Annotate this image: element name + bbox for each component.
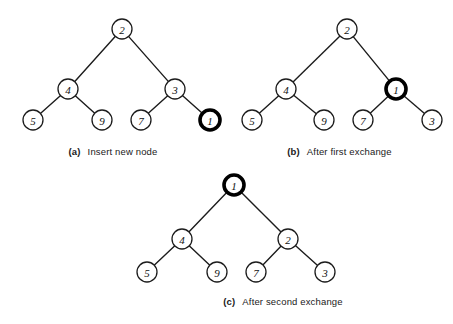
node-label: 3 [428,115,435,127]
node-label: 7 [360,115,366,127]
caption-b-tag: (b) [287,146,300,157]
tree-edge [263,246,282,265]
node-label: 5 [30,115,36,127]
node-label: 2 [344,24,350,36]
node-label: 3 [321,267,328,279]
tree-node-highlighted: 1 [224,175,244,195]
tree-node: 4 [172,229,192,249]
tree-node: 4 [276,79,296,99]
tree-edge [189,246,210,266]
tree-edge [403,95,425,114]
tree-node: 7 [246,262,266,282]
tree-panel-a: 2435971 (a)Insert new node [0,0,226,162]
node-label: 5 [144,267,150,279]
tree-edge [241,192,282,233]
tree-node: 7 [131,110,151,130]
node-label: 4 [283,84,289,96]
tree-node: 3 [422,110,442,130]
tree-node: 2 [112,19,132,39]
tree-node: 2 [278,229,298,249]
tree-node: 9 [92,110,112,130]
tree-node: 9 [207,262,227,282]
tree-edge [353,36,390,81]
tree-node: 3 [165,79,185,99]
node-label: 9 [321,115,327,127]
tree-edge [182,95,203,113]
node-label: 5 [249,115,255,127]
tree-node: 2 [337,19,357,39]
caption-a: (a)Insert new node [0,146,226,157]
tree-panel-b: 2415973 (b)After first exchange [226,0,453,162]
tree-diagram-b: 2415973 [226,0,453,162]
node-label: 4 [179,234,185,246]
tree-edge [128,36,168,82]
caption-c: (c)After second exchange [113,296,453,307]
tree-diagram-a: 2435971 [0,0,226,162]
caption-b-text: After first exchange [307,146,392,157]
node-label: 4 [65,84,71,96]
caption-a-tag: (a) [69,146,81,157]
figure-container: 2435971 (a)Insert new node 2415973 (b)Af… [0,0,453,324]
tree-edge [148,95,168,113]
tree-edge [40,95,61,113]
tree-node: 5 [23,110,43,130]
node-label: 7 [253,267,259,279]
tree-node: 4 [58,79,78,99]
tree-node-highlighted: 1 [386,79,406,99]
tree-edge [293,36,340,83]
node-label: 3 [171,84,178,96]
tree-edge [259,95,279,113]
tree-node-highlighted: 1 [200,110,220,130]
node-label: 7 [138,115,144,127]
node-label: 1 [393,84,399,96]
tree-node: 5 [242,110,262,130]
caption-b: (b)After first exchange [226,146,453,157]
tree-edge [370,96,389,114]
tree-edge [74,36,115,82]
tree-edge [75,95,95,113]
node-label: 2 [119,24,125,36]
caption-c-tag: (c) [223,296,235,307]
node-label: 1 [207,115,213,127]
caption-a-text: Insert new node [88,146,158,157]
node-label: 9 [214,267,220,279]
node-label: 1 [231,180,237,192]
tree-edge [295,245,318,265]
tree-edge [293,95,316,114]
node-label: 2 [285,234,291,246]
tree-edge [189,192,228,232]
caption-c-text: After second exchange [242,296,342,307]
tree-node: 3 [315,262,335,282]
tree-panel-c: 1425973 (c)After second exchange [113,162,453,324]
tree-node: 7 [353,110,373,130]
node-label: 9 [99,115,105,127]
tree-edge [154,246,175,266]
tree-node: 9 [314,110,334,130]
tree-node: 5 [137,262,157,282]
